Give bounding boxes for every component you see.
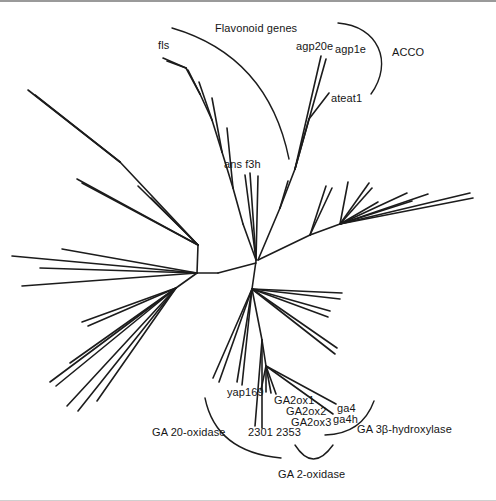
label-ga-3b-hydroxylase: GA 3β-hydroxylase: [357, 423, 452, 435]
label-agp1e: agp1e: [335, 43, 366, 55]
tree-branch: [252, 289, 335, 354]
tree-branch: [120, 162, 198, 245]
tree-branch: [176, 273, 197, 288]
tree-branch: [213, 289, 252, 378]
tree-branch: [67, 288, 176, 406]
figure-frame: Flavonoid genesflsagp20eagp1eACCOateat1a…: [0, 0, 496, 501]
tree-branch: [258, 235, 310, 260]
ga-2-oxidase-arc: [295, 445, 333, 459]
tree-branch: [82, 183, 198, 245]
tree-branch: [252, 261, 256, 289]
tree-branch: [199, 82, 212, 120]
tree-branch: [233, 188, 243, 224]
tree-branch: [295, 56, 321, 169]
label-ans-f3h: ans f3h: [224, 158, 261, 170]
flavonoid-genes-arc: [172, 28, 289, 159]
tree-branch: [218, 263, 256, 273]
label-flavonoid-genes: Flavonoid genes: [215, 22, 297, 34]
label-ga4h: ga4h: [333, 413, 358, 425]
tree-branches: [12, 56, 473, 428]
tree-branch: [310, 186, 326, 235]
label-ga-20-oxidase: GA 20-oxidase: [152, 426, 225, 438]
label-yap169: yap169: [227, 386, 264, 398]
tree-branch: [256, 176, 258, 260]
tree-branch: [35, 95, 120, 162]
label-ateat1: ateat1: [331, 92, 362, 104]
tree-branch: [167, 61, 186, 68]
acco-arc: [338, 23, 382, 94]
tree-branch: [197, 245, 198, 273]
tree-branch: [295, 119, 309, 169]
label-acco: ACCO: [392, 46, 424, 58]
tree-branch: [22, 273, 197, 286]
label-ga-2-oxidase: GA 2-oxidase: [278, 468, 345, 480]
label-agp20e: agp20e: [296, 40, 333, 52]
label-fls: fls: [158, 39, 169, 51]
tree-branch: [280, 181, 288, 208]
tree-branch: [255, 340, 262, 426]
label-clones-2301-2353: 2301 2353: [248, 426, 301, 438]
tree-branch: [258, 208, 280, 260]
tree-branch: [56, 288, 176, 386]
